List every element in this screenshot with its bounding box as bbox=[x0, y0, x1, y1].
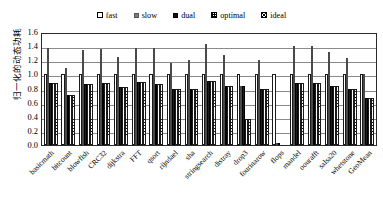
x-label-slot: CRC32 bbox=[94, 147, 112, 197]
x-label-slot: flops bbox=[271, 147, 289, 197]
bar-group bbox=[253, 34, 271, 145]
legend-label: ideal bbox=[270, 11, 286, 20]
bar-group bbox=[42, 34, 60, 145]
bar-group bbox=[306, 34, 324, 145]
bar-group bbox=[95, 34, 113, 145]
bar-ideal bbox=[266, 89, 269, 146]
legend-label: optimal bbox=[220, 11, 245, 20]
legend-swatch-dual-icon bbox=[173, 13, 178, 18]
legend-swatch-slow-icon bbox=[134, 13, 139, 18]
x-label-slot: distray bbox=[218, 147, 236, 197]
bar-ideal bbox=[178, 89, 181, 146]
legend-label: fast bbox=[106, 11, 118, 20]
bar-group bbox=[358, 34, 376, 145]
x-label-slot: dijkstra bbox=[112, 147, 130, 197]
x-axis-labels: basicmathbitcountblowfishCRC32dijkstraFF… bbox=[41, 147, 377, 197]
y-tick-label: 1.0 bbox=[0, 71, 38, 79]
x-label-slot: rijndael bbox=[165, 147, 183, 197]
legend-label: dual bbox=[181, 11, 195, 20]
y-tick-label: 0.2 bbox=[0, 128, 38, 136]
y-tick-label: 0.8 bbox=[0, 86, 38, 94]
x-label-slot: FFT bbox=[129, 147, 147, 197]
x-label-slot: GeoMean bbox=[359, 147, 377, 197]
bar-group bbox=[60, 34, 78, 145]
legend-swatch-ideal-icon bbox=[261, 12, 267, 18]
bar-ideal bbox=[160, 84, 163, 145]
y-tick-label: 1.6 bbox=[0, 29, 38, 37]
bar-ideal bbox=[72, 95, 75, 145]
x-label-slot: bitcount bbox=[59, 147, 77, 197]
bar-ideal bbox=[248, 119, 251, 145]
bar-group bbox=[218, 34, 236, 145]
legend-item-optimal[interactable]: optimal bbox=[211, 11, 245, 20]
bar-group bbox=[235, 34, 253, 145]
y-tick-label: 0.4 bbox=[0, 114, 38, 122]
legend-item-ideal[interactable]: ideal bbox=[261, 11, 286, 20]
bar-fast bbox=[272, 74, 275, 145]
x-tick-label: FFT bbox=[129, 149, 144, 164]
bar-ideal bbox=[336, 86, 339, 145]
y-tick-label: 1.2 bbox=[0, 57, 38, 65]
bar-dual bbox=[278, 143, 281, 145]
x-label-slot: stringsearch bbox=[200, 147, 218, 197]
bar-ideal bbox=[318, 83, 321, 145]
x-label-slot: oourafft bbox=[306, 147, 324, 197]
y-tick-label: 0.6 bbox=[0, 100, 38, 108]
bar-ideal bbox=[143, 82, 146, 145]
bar-group bbox=[200, 34, 218, 145]
bar-group bbox=[341, 34, 359, 145]
legend-label: slow bbox=[142, 11, 157, 20]
bar-group bbox=[323, 34, 341, 145]
plot-area bbox=[41, 33, 377, 146]
legend-swatch-optimal-icon bbox=[211, 12, 217, 18]
bar-groups bbox=[42, 34, 376, 145]
bar-ideal bbox=[301, 83, 304, 145]
bar-ideal bbox=[213, 81, 216, 145]
bar-ideal bbox=[230, 86, 233, 145]
chart-legend: fastslowdualoptimalideal bbox=[0, 8, 383, 22]
bar-group bbox=[112, 34, 130, 145]
bar-group bbox=[77, 34, 95, 145]
bar-group bbox=[271, 34, 289, 145]
bar-group bbox=[147, 34, 165, 145]
x-label-slot: fourinarow bbox=[253, 147, 271, 197]
x-label-slot: qsort bbox=[147, 147, 165, 197]
legend-item-slow[interactable]: slow bbox=[134, 11, 157, 20]
bar-ideal bbox=[90, 84, 93, 145]
x-label-slot: mandel bbox=[289, 147, 307, 197]
chart-figure: fastslowdualoptimalideal 归一化的动态功耗 0.00.2… bbox=[0, 0, 383, 197]
bar-ideal bbox=[195, 89, 198, 146]
y-tick-label: 0.0 bbox=[0, 142, 38, 150]
bar-group bbox=[183, 34, 201, 145]
legend-item-dual[interactable]: dual bbox=[173, 11, 195, 20]
bar-group bbox=[130, 34, 148, 145]
x-label-slot: blowfish bbox=[76, 147, 94, 197]
bar-ideal bbox=[371, 98, 374, 145]
bar-ideal bbox=[125, 87, 128, 145]
bar-ideal bbox=[107, 83, 110, 145]
bar-group bbox=[288, 34, 306, 145]
plot-inner bbox=[42, 34, 376, 145]
legend-item-fast[interactable]: fast bbox=[97, 11, 118, 20]
y-tick-label: 1.4 bbox=[0, 43, 38, 51]
bar-ideal bbox=[55, 83, 58, 145]
bar-ideal bbox=[354, 89, 357, 146]
legend-swatch-fast-icon bbox=[97, 12, 103, 18]
bar-group bbox=[165, 34, 183, 145]
